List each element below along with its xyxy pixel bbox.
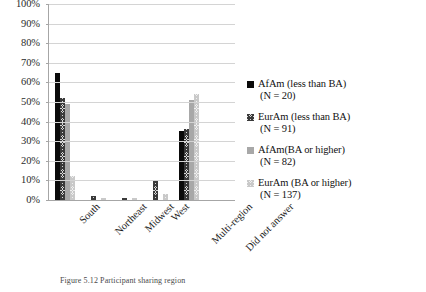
gridline — [49, 24, 235, 25]
y-axis-tick — [46, 141, 49, 142]
x-axis-category-label: West — [169, 201, 191, 223]
gridline — [49, 63, 235, 64]
legend-sample-size: (N = 82) — [258, 156, 345, 168]
y-axis-tick-label: 100% — [16, 0, 40, 9]
y-axis-tick — [46, 24, 49, 25]
gridline — [49, 122, 235, 123]
legend-swatch-icon — [247, 180, 254, 187]
y-axis-tick-label: 30% — [21, 136, 40, 146]
y-axis-tick — [46, 82, 49, 83]
y-axis-tick-label: 50% — [21, 97, 40, 107]
figure-container: 0%10%20%30%40%50%60%70%80%90%100% SouthN… — [0, 0, 426, 292]
gridline — [49, 4, 235, 5]
x-axis-category-labels: SouthNortheastMidwestWestMulti-regionDid… — [48, 201, 234, 273]
legend-label: EurAm (BA or higher)(N = 137) — [258, 177, 351, 201]
y-axis-tick-label: 70% — [21, 58, 40, 68]
legend-sample-size: (N = 137) — [258, 189, 351, 201]
y-axis-tick-label: 40% — [21, 117, 40, 127]
y-axis-tick-label: 60% — [21, 77, 40, 87]
legend-item[interactable]: EurAm (less than BA)(N = 91) — [247, 111, 426, 135]
y-axis-tick — [46, 43, 49, 44]
y-axis-tick-label: 10% — [21, 175, 40, 185]
y-axis-tick — [46, 180, 49, 181]
y-axis-tick — [46, 63, 49, 64]
legend-swatch-icon — [247, 81, 254, 88]
gridline — [49, 82, 235, 83]
legend-sample-size: (N = 20) — [258, 90, 346, 102]
chart-plot-area: 0%10%20%30%40%50%60%70%80%90%100% SouthN… — [0, 4, 240, 214]
bar — [153, 180, 158, 200]
gridline — [49, 180, 235, 181]
legend-swatch-icon — [247, 147, 254, 154]
y-axis-tick — [46, 102, 49, 103]
legend-item[interactable]: AfAm(BA or higher)(N = 82) — [247, 144, 426, 168]
legend-sample-size: (N = 91) — [258, 123, 350, 135]
plot-grid — [48, 4, 235, 200]
legend-item[interactable]: EurAm (BA or higher)(N = 137) — [247, 177, 426, 201]
y-axis-tick-label: 90% — [21, 19, 40, 29]
y-axis-tick-label: 20% — [21, 156, 40, 166]
y-axis-tick — [46, 4, 49, 5]
legend-label: EurAm (less than BA)(N = 91) — [258, 111, 350, 135]
legend-swatch-icon — [247, 114, 254, 121]
legend-label: AfAm(BA or higher)(N = 82) — [258, 144, 345, 168]
y-axis-tick — [46, 122, 49, 123]
x-axis-category-label: Northeast — [113, 201, 149, 237]
gridline — [49, 141, 235, 142]
figure-caption: Figure 5.12 Participant sharing region — [60, 276, 390, 285]
x-axis-category-label: South — [77, 201, 102, 226]
legend-item[interactable]: AfAm (less than BA)(N = 20) — [247, 78, 426, 102]
gridline — [49, 102, 235, 103]
y-axis-tick-label: 80% — [21, 38, 40, 48]
y-axis: 0%10%20%30%40%50%60%70%80%90%100% — [0, 4, 44, 200]
y-axis-tick-label: 0% — [26, 195, 40, 205]
legend-label: AfAm (less than BA)(N = 20) — [258, 78, 346, 102]
chart-legend: AfAm (less than BA)(N = 20)EurAm (less t… — [247, 78, 426, 210]
gridline — [49, 161, 235, 162]
y-axis-tick — [46, 161, 49, 162]
bar — [194, 94, 199, 200]
gridline — [49, 43, 235, 44]
